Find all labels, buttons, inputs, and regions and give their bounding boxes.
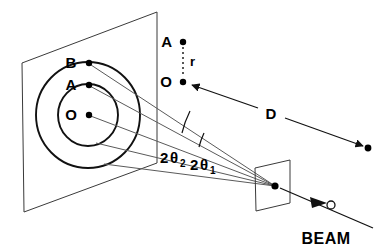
arc-2theta1	[199, 133, 204, 147]
label-legend-point-o: O	[160, 73, 172, 90]
film-point-markers	[86, 60, 92, 118]
distance-arrow-left-seg	[192, 85, 258, 108]
label-legend-point-a: A	[161, 33, 172, 50]
legend-point-a-dot	[180, 39, 186, 45]
label-point-o: O	[65, 106, 77, 123]
label-2theta2-theta: θ	[170, 149, 178, 166]
distance-dimension	[192, 85, 371, 151]
label-point-a: A	[66, 76, 77, 93]
label-2theta2-prefix: 2	[160, 149, 168, 166]
beam-arrowhead	[310, 197, 327, 208]
label-beam: BEAM	[301, 230, 350, 247]
point-a-dot	[86, 82, 92, 88]
sample-holder	[255, 160, 290, 211]
label-2theta1-subscript: 1	[210, 165, 216, 176]
point-b-dot	[86, 60, 92, 66]
beam-aperture-marker	[327, 201, 335, 209]
label-2theta1-theta: θ	[200, 156, 208, 173]
point-o-dot	[86, 112, 92, 118]
sample-center-dot	[271, 182, 278, 189]
distance-endpoint-dot	[365, 145, 372, 152]
incident-beam	[280, 188, 373, 228]
diffraction-diagram: B A O A O r D 2 θ 2 2 θ 1	[0, 0, 392, 247]
beam-line	[280, 188, 373, 228]
label-2theta2-group: 2 θ 2	[160, 149, 186, 169]
label-point-b: B	[66, 54, 77, 71]
legend-point-o-dot	[180, 79, 186, 85]
ray-to-a	[88, 85, 275, 186]
label-radius-r: r	[190, 54, 195, 69]
diagram-canvas: B A O A O r D 2 θ 2 2 θ 1	[0, 0, 392, 247]
label-2theta1-group: 2 θ 1	[190, 156, 216, 176]
label-2theta2-subscript: 2	[180, 158, 186, 169]
radius-legend	[180, 39, 186, 85]
label-distance-d: D	[266, 105, 277, 122]
label-2theta1-prefix: 2	[190, 156, 198, 173]
ray-to-o	[88, 115, 275, 186]
distance-arrow-right-seg	[285, 118, 363, 146]
